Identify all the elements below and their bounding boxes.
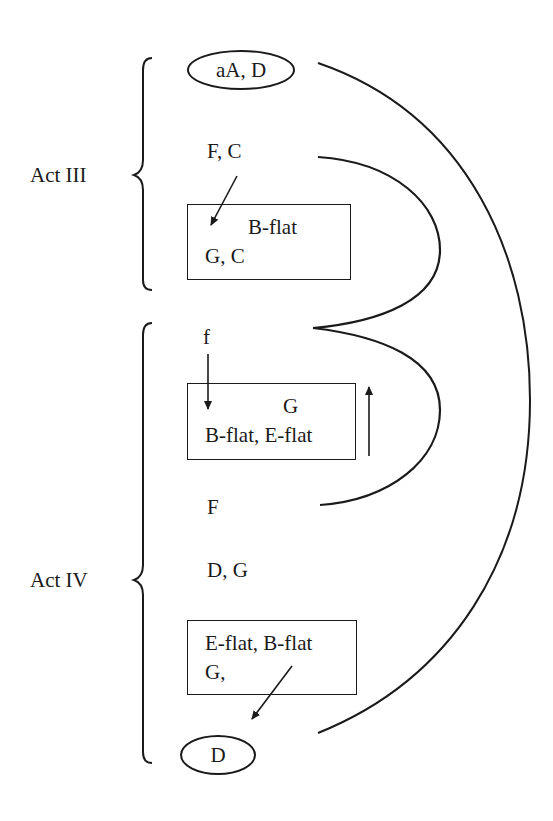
act4-label: Act IV xyxy=(30,570,88,591)
act4-box1 xyxy=(187,383,356,460)
node-F: F xyxy=(207,497,219,518)
start-oval: aA, D xyxy=(187,50,295,90)
act3-brace xyxy=(134,58,152,290)
act4-brace xyxy=(134,323,152,763)
act4-box1-line1: G xyxy=(283,396,298,417)
act4-box2-line1: E-flat, B-flat xyxy=(205,633,312,654)
end-oval: D xyxy=(180,735,256,775)
end-oval-text: D xyxy=(210,743,225,768)
node-f-c: F, C xyxy=(207,141,242,162)
act3-box-line1: B-flat xyxy=(248,217,297,238)
act4-box2-line2: G, xyxy=(205,662,225,683)
start-oval-text: aA, D xyxy=(216,58,266,83)
act3-label: Act III xyxy=(30,165,87,186)
node-d-g: D, G xyxy=(207,560,248,581)
act4-box1-line2: B-flat, E-flat xyxy=(205,425,312,446)
node-f-lower: f xyxy=(203,327,210,348)
act3-box-line2: G, C xyxy=(205,246,245,267)
